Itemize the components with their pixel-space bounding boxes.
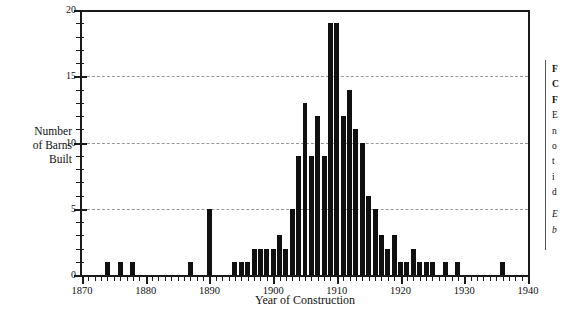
bar	[334, 23, 339, 275]
x-axis-minor-tick	[305, 277, 306, 281]
x-axis-minor-tick	[178, 277, 179, 281]
x-axis-minor-tick	[318, 277, 319, 281]
bar	[264, 249, 269, 276]
y-axis-title: Number of Barns Built	[0, 124, 72, 166]
bar	[309, 156, 314, 275]
bar	[245, 262, 250, 275]
x-axis-minor-tick	[222, 277, 223, 281]
x-axis-minor-tick	[471, 277, 472, 281]
caption-body-line: t	[552, 154, 569, 169]
x-axis-minor-tick	[267, 277, 268, 281]
bar	[283, 249, 288, 276]
x-axis-title: Year of Construction	[80, 293, 530, 308]
x-axis-minor-tick	[458, 277, 459, 281]
x-axis-minor-tick	[88, 277, 89, 281]
bar	[455, 262, 460, 275]
bar	[360, 143, 365, 276]
bar	[105, 262, 110, 275]
bar	[392, 235, 397, 275]
x-axis-minor-tick	[343, 277, 344, 281]
bar	[398, 262, 403, 275]
x-axis-minor-tick	[452, 277, 453, 281]
caption-body-line: o	[552, 139, 569, 154]
bar	[500, 262, 505, 275]
x-axis-minor-tick	[394, 277, 395, 281]
bar	[353, 129, 358, 275]
caption-body-line: i	[552, 170, 569, 185]
bar	[443, 262, 448, 275]
x-axis-minor-tick	[184, 277, 185, 281]
x-axis-major-tick	[528, 277, 530, 284]
x-axis-minor-tick	[158, 277, 159, 281]
x-axis-minor-tick	[107, 277, 108, 281]
bar	[232, 262, 237, 275]
bar-series	[82, 10, 528, 275]
x-axis-minor-tick	[139, 277, 140, 281]
x-axis-minor-tick	[197, 277, 198, 281]
x-axis-minor-tick	[413, 277, 414, 281]
x-axis-minor-tick	[280, 277, 281, 281]
x-axis-minor-tick	[350, 277, 351, 281]
caption-body-line: d	[552, 185, 569, 200]
x-axis-minor-tick	[260, 277, 261, 281]
bar	[188, 262, 193, 275]
bar	[411, 249, 416, 276]
x-axis-minor-tick	[483, 277, 484, 281]
x-axis-major-tick	[146, 277, 148, 284]
x-axis-minor-tick	[381, 277, 382, 281]
bar	[258, 249, 263, 276]
x-axis-minor-tick	[101, 277, 102, 281]
x-axis-minor-tick	[420, 277, 421, 281]
bar	[296, 156, 301, 275]
chart-figure: Number of Barns Built 05101520 187018801…	[0, 0, 569, 313]
x-axis-major-tick	[337, 277, 339, 284]
bar	[404, 262, 409, 275]
x-axis-minor-tick	[356, 277, 357, 281]
x-axis-minor-tick	[407, 277, 408, 281]
y-axis-tick-label: 15	[66, 71, 76, 81]
bar	[379, 235, 384, 275]
y-axis-tick-label: 5	[71, 204, 76, 214]
x-axis-major-tick	[209, 277, 211, 284]
x-axis-minor-tick	[311, 277, 312, 281]
y-axis-tick-label: 10	[66, 138, 76, 148]
y-axis-title-line: Built	[0, 152, 72, 166]
caption-body-line: E	[552, 108, 569, 123]
x-axis-minor-tick	[292, 277, 293, 281]
x-axis-major-tick	[82, 277, 84, 284]
bar	[239, 262, 244, 275]
bar	[277, 235, 282, 275]
bar	[347, 90, 352, 276]
x-axis-minor-tick	[114, 277, 115, 281]
y-axis-title-line: Number	[0, 124, 72, 138]
x-axis-minor-tick	[120, 277, 121, 281]
x-axis-minor-tick	[299, 277, 300, 281]
x-axis-minor-tick	[133, 277, 134, 281]
x-axis-major-tick	[273, 277, 275, 284]
x-axis-minor-tick	[362, 277, 363, 281]
caption-body-line: n	[552, 124, 569, 139]
x-axis-minor-tick	[426, 277, 427, 281]
plot-area: 05101520 1870188018901900191019201930194…	[80, 10, 530, 277]
bar	[328, 23, 333, 275]
y-axis-tick-label: 20	[66, 5, 76, 15]
x-axis-minor-tick	[496, 277, 497, 281]
bar	[252, 249, 257, 276]
caption-body: E n o t i d	[552, 108, 569, 200]
bar	[385, 249, 390, 276]
caption-note: E b	[552, 207, 569, 238]
bar	[417, 262, 422, 275]
bar	[290, 209, 295, 275]
x-axis-minor-tick	[203, 277, 204, 281]
x-axis-minor-tick	[477, 277, 478, 281]
x-axis-minor-tick	[369, 277, 370, 281]
bar	[207, 209, 212, 275]
bar	[118, 262, 123, 275]
bar	[271, 249, 276, 276]
x-axis-minor-tick	[216, 277, 217, 281]
x-axis-minor-tick	[254, 277, 255, 281]
x-axis-minor-tick	[152, 277, 153, 281]
x-axis-major-tick	[464, 277, 466, 284]
x-axis-minor-tick	[509, 277, 510, 281]
x-axis-minor-tick	[235, 277, 236, 281]
